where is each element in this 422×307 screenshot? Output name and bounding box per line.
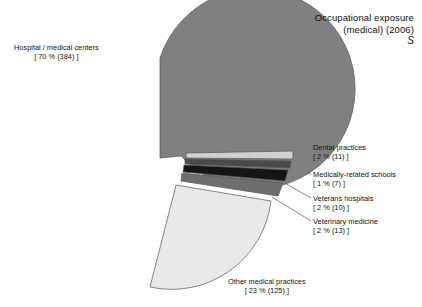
chart-title-line1: Occupational exposure	[315, 12, 414, 23]
slice-label-schools: Medically-related schools [ 1 % (7) ]	[313, 170, 396, 188]
leader-line-veterinary	[272, 197, 311, 221]
slice-label-hospital: Hospital / medical centers [ 70 % (384) …	[14, 43, 99, 61]
pie-slice-other	[150, 185, 271, 289]
slice-label-veterans-value: [ 2 % (10) ]	[313, 203, 373, 212]
slice-label-veterans: Veterans hospitals [ 2 % (10) ]	[313, 194, 373, 212]
slice-label-schools-name: Medically-related schools	[313, 170, 396, 179]
slice-label-dental-name: Dental practices	[313, 143, 366, 152]
slice-label-veterans-name: Veterans hospitals	[313, 194, 373, 203]
chart-title-symbol: S	[315, 35, 414, 47]
chart-title-line2: (medical) (2006)	[315, 24, 414, 36]
chart-title: Occupational exposure (medical) (2006) S	[315, 12, 414, 47]
slice-label-veterinary-name: Veterinary medicine	[313, 217, 378, 226]
slice-label-hospital-value: [ 70 % (384) ]	[14, 52, 99, 61]
leader-line-veterans	[283, 182, 311, 198]
slice-label-schools-value: [ 1 % (7) ]	[313, 179, 396, 188]
slice-label-veterinary: Veterinary medicine [ 2 % (13) ]	[313, 217, 378, 235]
pie-chart-figure: Occupational exposure (medical) (2006) S…	[0, 0, 422, 307]
slice-label-other-name: Other medical practices	[228, 277, 306, 286]
slice-label-other-value: [ 23 % (125) ]	[228, 286, 306, 295]
slice-label-dental: Dental practices [ 2 % (11) ]	[313, 143, 366, 161]
slice-label-hospital-name: Hospital / medical centers	[14, 43, 99, 52]
slice-label-dental-value: [ 2 % (11) ]	[313, 152, 366, 161]
slice-label-other: Other medical practices [ 23 % (125) ]	[228, 277, 306, 295]
slice-label-veterinary-value: [ 2 % (13) ]	[313, 226, 378, 235]
